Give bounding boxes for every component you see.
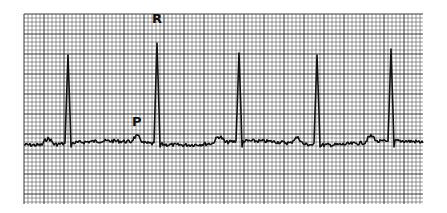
ecg-grid-paper xyxy=(24,14,423,204)
ecg-strip xyxy=(0,0,447,213)
r-wave-label: R xyxy=(152,12,162,25)
p-wave-label: P xyxy=(132,115,142,128)
